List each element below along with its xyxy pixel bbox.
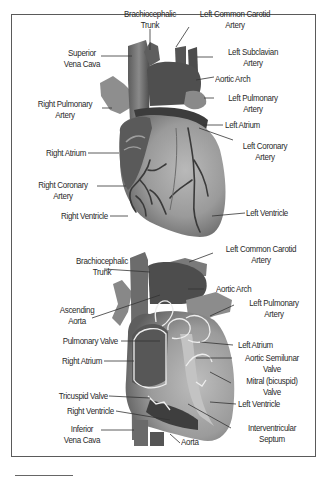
label-left-subclavian-artery: Left Subclavian Artery: [214, 47, 291, 69]
label-left-atrium-bottom: Left Atrium: [238, 340, 298, 351]
label-right-ventricle-top: Right Ventricle: [32, 211, 108, 222]
label-left-common-carotid-artery-bottom: Left Common Carotid Artery: [214, 244, 309, 266]
bottom-heart: [112, 252, 234, 446]
label-right-atrium-bottom: Right Atrium: [31, 356, 102, 367]
label-aorta: Aorta: [181, 437, 215, 448]
top-heart: [100, 40, 226, 237]
label-left-common-carotid-artery-top: Left Common Carotid Artery: [188, 9, 283, 31]
label-tricuspid-valve: Tricuspid Valve: [27, 391, 108, 402]
label-aortic-arch-bottom: Aortic Arch: [216, 284, 285, 295]
label-inferior-vena-cava: Inferior Vena Cava: [56, 424, 108, 446]
label-left-ventricle-top: Left Ventricle: [246, 208, 306, 219]
footnote-rule: [15, 475, 73, 476]
label-brachiocephalic-trunk-top: Brachiocephalic Trunk: [107, 9, 193, 31]
label-right-atrium-top: Right Atrium: [21, 148, 86, 159]
label-ascending-aorta: Ascending Aorta: [56, 305, 99, 327]
label-left-coronary-artery: Left Coronary Artery: [231, 141, 300, 163]
label-superior-vena-cava: Superior Vena Cava: [56, 48, 108, 70]
label-left-ventricle-bottom: Left Ventricle: [238, 399, 298, 410]
label-left-pulmonary-artery-top: Left Pulmonary Artery: [214, 93, 291, 115]
label-interventricular-septum: Interventricular Septum: [234, 423, 310, 445]
label-pulmonary-valve: Pulmonary Valve: [41, 336, 118, 347]
label-left-atrium-top: Left Atrium: [225, 120, 294, 131]
label-aortic-semilunar-valve: Aortic Semilunar Valve: [234, 353, 310, 375]
label-left-pulmonary-artery-bottom: Left Pulmonary Artery: [238, 298, 310, 320]
label-right-pulmonary-artery: Right Pulmonary Artery: [26, 99, 103, 121]
label-mitral-valve: Mitral (bicuspid) Valve: [234, 376, 310, 398]
label-aortic-arch-top: Aortic Arch: [215, 74, 284, 85]
label-right-ventricle-bottom: Right Ventricle: [33, 406, 114, 417]
label-brachiocephalic-trunk-bottom: Brachiocephalic Trunk: [59, 256, 145, 278]
label-right-coronary-artery: Right Coronary Artery: [33, 180, 93, 202]
